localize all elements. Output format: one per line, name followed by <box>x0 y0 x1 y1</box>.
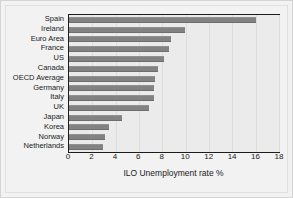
bar <box>69 17 256 23</box>
x-axis-tick-label: 16 <box>251 153 260 161</box>
bar-series <box>69 15 279 152</box>
y-axis-tick-label: Netherlands <box>7 141 66 151</box>
bar <box>69 85 154 91</box>
bar <box>69 27 185 33</box>
y-axis-tick-label: Euro Area <box>7 34 66 44</box>
y-axis-tick-label: Japan <box>7 112 66 122</box>
y-axis-category-labels: SpainIrelandEuro AreaFranceUSCanadaOECD … <box>7 14 66 151</box>
bar <box>69 95 154 101</box>
x-axis-tick-label: 14 <box>228 153 237 161</box>
bar <box>69 105 149 111</box>
bar-row <box>69 15 279 25</box>
bar-row <box>69 83 279 93</box>
y-axis-tick-label: Norway <box>7 131 66 141</box>
bar-row <box>69 74 279 84</box>
x-axis-tick-label: 6 <box>136 153 140 161</box>
bar <box>69 56 164 62</box>
x-axis-tick-labels: 024681012141618 <box>68 153 279 165</box>
y-axis-tick-label: Ireland <box>7 24 66 34</box>
bar <box>69 115 122 121</box>
x-axis-title: ILO Unemployment rate % <box>68 168 279 178</box>
y-axis-tick-label: Korea <box>7 122 66 132</box>
bar-row <box>69 54 279 64</box>
x-axis-tick-label: 2 <box>89 153 93 161</box>
bar-row <box>69 103 279 113</box>
bar-row <box>69 123 279 133</box>
y-axis-tick-label: Spain <box>7 14 66 24</box>
bar <box>69 36 171 42</box>
x-axis-tick-label: 0 <box>66 153 70 161</box>
y-axis-tick-label: OECD Average <box>7 73 66 83</box>
bar <box>69 144 103 150</box>
x-axis-tick-label: 12 <box>204 153 213 161</box>
bar-row <box>69 93 279 103</box>
chart-figure: SpainIrelandEuro AreaFranceUSCanadaOECD … <box>0 0 293 198</box>
x-axis-tick-label: 4 <box>113 153 117 161</box>
y-axis-tick-label: Italy <box>7 92 66 102</box>
x-axis-tick-label: 8 <box>160 153 164 161</box>
y-axis-tick-label: US <box>7 53 66 63</box>
gridline <box>279 15 280 152</box>
bar <box>69 134 105 140</box>
bar <box>69 66 158 72</box>
bar <box>69 46 169 52</box>
bar-row <box>69 35 279 45</box>
bar <box>69 76 155 82</box>
bar-row <box>69 142 279 152</box>
bar-row <box>69 44 279 54</box>
plot-area <box>68 14 280 153</box>
bar-row <box>69 113 279 123</box>
y-axis-tick-label: Canada <box>7 63 66 73</box>
bar-row <box>69 25 279 35</box>
bar-row <box>69 64 279 74</box>
x-axis-tick-label: 10 <box>181 153 190 161</box>
y-axis-tick-label: UK <box>7 102 66 112</box>
y-axis-tick-label: France <box>7 43 66 53</box>
bar <box>69 124 109 130</box>
y-axis-tick-label: Germany <box>7 82 66 92</box>
x-axis-tick-label: 18 <box>275 153 284 161</box>
bar-row <box>69 132 279 142</box>
